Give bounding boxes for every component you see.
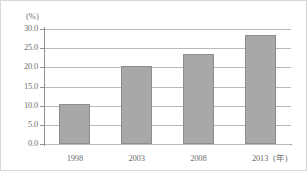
y-axis-tick-label: 0.0: [4, 139, 38, 148]
y-axis-tick-mark: [40, 29, 45, 30]
x-axis-tick-label: 2013: [240, 153, 280, 163]
bar-2013: [245, 35, 276, 144]
y-axis-tick-label: 15.0: [4, 82, 38, 91]
x-axis-tick-label: 1998: [55, 153, 95, 163]
y-axis-tick-mark: [40, 67, 45, 68]
y-axis-tick-label: 30.0: [4, 24, 38, 33]
bar-2003: [121, 66, 152, 144]
y-axis-tick-label: 25.0: [4, 43, 38, 52]
y-axis-tick-mark: [40, 87, 45, 88]
y-axis-tick-label-group: 30.025.020.015.010.05.00.0: [1, 1, 38, 171]
y-axis-tick-label: 5.0: [4, 120, 38, 129]
gridline: [44, 144, 291, 145]
x-axis-tick-label: 2003: [117, 153, 157, 163]
y-axis-tick-mark: [40, 144, 45, 145]
x-axis-tick-label: 2008: [178, 153, 218, 163]
y-axis-tick-mark: [40, 106, 45, 107]
bar-chart-figure: (%) 30.025.020.015.010.05.00.0 (年) 19982…: [0, 0, 307, 171]
bar-2008: [183, 54, 214, 144]
gridline: [44, 29, 291, 30]
y-axis-tick-mark: [40, 125, 45, 126]
y-axis-tick-mark: [40, 48, 45, 49]
bar-1998: [59, 104, 90, 144]
y-axis-tick-label: 10.0: [4, 101, 38, 110]
plot-area: [44, 29, 291, 144]
y-axis-tick-label: 20.0: [4, 62, 38, 71]
